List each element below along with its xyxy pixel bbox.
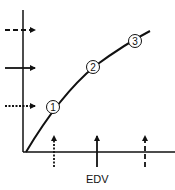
svg-text:1: 1 <box>50 102 56 113</box>
frank-starling-diagram: 1 2 3 <box>0 0 175 190</box>
point-3: 3 <box>129 35 142 48</box>
point-2: 2 <box>87 61 100 74</box>
curve <box>26 31 150 152</box>
svg-text:2: 2 <box>90 62 96 73</box>
svg-text:3: 3 <box>132 36 138 47</box>
x-axis-label: EDV <box>86 173 109 185</box>
point-1: 1 <box>47 101 60 114</box>
